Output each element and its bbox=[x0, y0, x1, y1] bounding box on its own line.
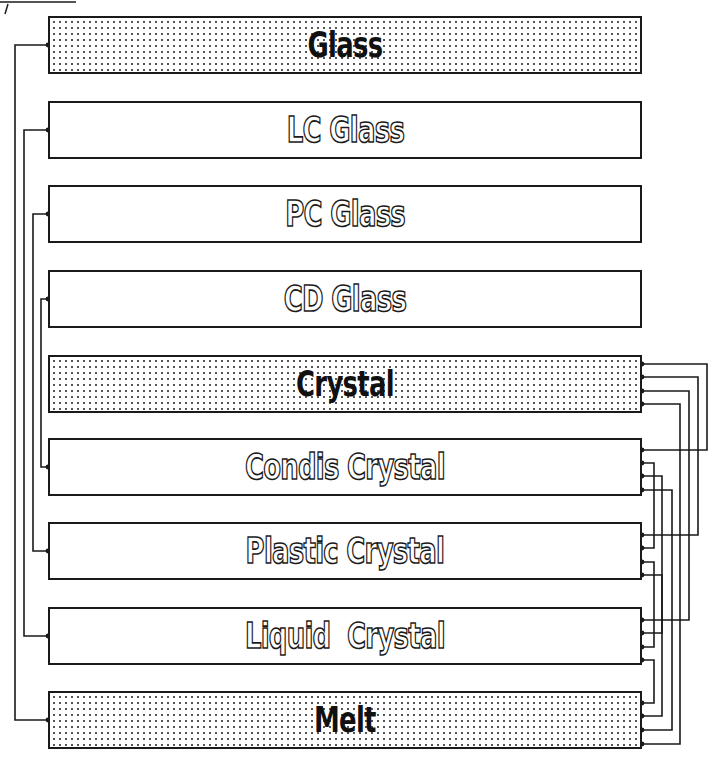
node-label: Melt bbox=[314, 702, 376, 738]
connector-plastic_crystal-melt bbox=[642, 575, 662, 716]
node-label: Liquid Crystal bbox=[245, 618, 445, 654]
node-melt: Melt bbox=[48, 691, 642, 749]
connector-crystal-melt bbox=[642, 404, 680, 744]
node-label: LC Glass bbox=[286, 112, 403, 148]
node-label: Crystal bbox=[296, 366, 394, 402]
node-condis-crystal: Condis Crystal bbox=[48, 438, 642, 496]
node-pc-glass: PC Glass bbox=[48, 185, 642, 243]
connector-condis_crystal-liquid_crystal bbox=[642, 476, 662, 633]
node-glass: Glass bbox=[48, 16, 642, 74]
connector-condis_crystal-melt bbox=[642, 490, 672, 730]
connector-glass-melt bbox=[15, 45, 48, 720]
node-label: CD Glass bbox=[284, 281, 406, 317]
phase-diagram: Glass LC Glass PC Glass CD Glass Crystal… bbox=[0, 0, 713, 759]
connector-liquid_crystal-melt bbox=[642, 660, 654, 703]
left-connectors bbox=[15, 43, 50, 723]
node-crystal: Crystal bbox=[48, 355, 642, 413]
node-label: Glass bbox=[308, 27, 383, 63]
node-label: Plastic Crystal bbox=[246, 533, 445, 569]
connector-crystal-liquid_crystal bbox=[642, 391, 689, 620]
node-plastic-crystal: Plastic Crystal bbox=[48, 522, 642, 580]
cropped-fragment-stroke bbox=[5, 4, 8, 14]
node-label: PC Glass bbox=[285, 196, 405, 232]
node-lc-glass: LC Glass bbox=[48, 101, 642, 159]
node-label: Condis Crystal bbox=[245, 449, 445, 485]
node-cd-glass: CD Glass bbox=[48, 270, 642, 328]
connector-cd_glass-condis_crystal bbox=[41, 299, 48, 467]
right-connectors bbox=[640, 362, 707, 747]
node-liquid-crystal: Liquid Crystal bbox=[48, 607, 642, 665]
connector-lc_glass-liquid_crystal bbox=[24, 130, 48, 636]
